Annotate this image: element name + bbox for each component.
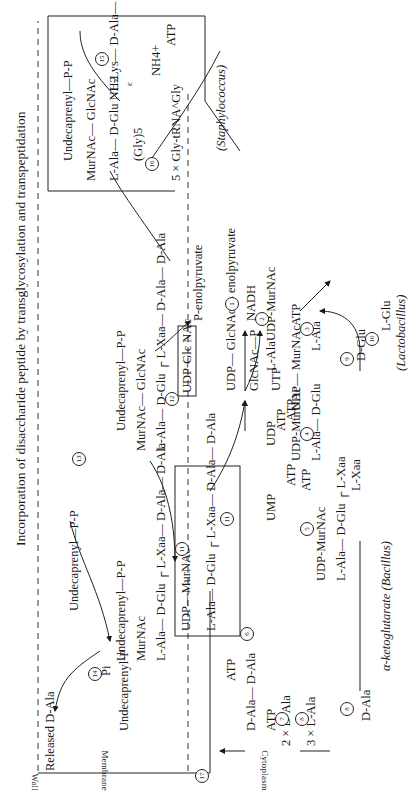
lipid1-peptide: L-Ala— D-Glu ┌ L-Xaa— D-Ala— D-Ala: [155, 443, 168, 661]
bacillus-organism: α-ketoglutarate (Bacillus): [380, 541, 393, 671]
d-ala-bacillus: D-Ala: [360, 690, 373, 721]
released-d-ala: Released D-Ala: [44, 692, 57, 771]
lactobacillus-organism: (Lactobacillus): [395, 295, 408, 371]
staph-sugar: MurNAc— GlcNAc: [85, 79, 98, 181]
pathway-diagram: Incorporation of disaccharide peptide by…: [0, 0, 418, 791]
lipid2-sugar: MurNAc— GlcNAc: [135, 349, 148, 451]
atp-staph: ATP: [165, 24, 178, 46]
atp-udp: ATP: [285, 399, 298, 421]
gly5-label: (Gly)5: [132, 128, 145, 161]
lipid1-sugar: MurNAc: [135, 616, 148, 661]
epsilon-label: ε: [125, 82, 134, 86]
gly-trna: 5 × Gly-tRNA^Gly: [170, 84, 183, 181]
lipid1-lipid: Undecaprenyl—P-P: [115, 560, 128, 661]
nh4-label: NH4+: [150, 45, 163, 76]
step-1: 1: [225, 297, 239, 311]
lipid2-lipid: Undecaprenyl—P-P: [115, 330, 128, 431]
step-6: 6: [240, 627, 254, 641]
lipid2-peptide: L-Ala— D-Glu ┌ L-Xaa— D-Ala— D-Ala: [155, 233, 168, 451]
utp-label: UTP: [270, 367, 283, 391]
step-8a: 8: [295, 712, 309, 726]
udp-glcnac: UDP-Glc NAc: [181, 319, 194, 393]
label-wall: Wall: [30, 773, 39, 791]
staph-peptide-a: L-Ala— D-Glu NH2: [108, 76, 121, 181]
d-ala-d-ala: D-Ala— D-Ala: [245, 653, 258, 731]
label-cytoplasm: Cytoplasm: [260, 750, 269, 791]
l-glu: L-Glu: [380, 300, 393, 331]
step-10: 10: [365, 332, 379, 346]
atp-ump: ATP: [285, 464, 298, 486]
diagram-title: Incorporation of disaccharide peptide by…: [14, 112, 28, 547]
udp-murnac-glu-tail: L-Ala— D-Glu: [310, 384, 323, 461]
glcnac-p: GlcNAc—P: [248, 330, 261, 391]
step-16: 16: [145, 157, 159, 171]
step-14: 14: [88, 667, 102, 681]
udp-label: UDP: [265, 421, 278, 446]
l-xaa: L-Xaa: [350, 459, 363, 491]
label-membrane: Membrane: [100, 750, 109, 791]
step-9: 9: [340, 352, 354, 366]
step-13: 13: [72, 452, 86, 466]
staph-peptide-b: L-Lys— D-Ala— D-Ala: [108, 0, 121, 91]
step-11a: 11: [220, 512, 234, 526]
ump-label: UMP: [265, 494, 278, 521]
step-17: 17: [195, 769, 209, 783]
udp-murnac-xaa-tail: L-Ala— D-Glu ┌ L-Xaa: [335, 457, 348, 581]
undecaprenyl-p: Undecaprenyl-P: [118, 650, 131, 731]
udp-box-peptide: L-Ala— D-Glu ┌ L-Xaa— D-Ala— D-Ala: [205, 413, 218, 631]
step-2: 2: [255, 312, 269, 326]
step-12: 12: [165, 392, 179, 406]
staph-organism: (Staphylococcus): [215, 65, 228, 151]
step-11b: 11: [175, 542, 189, 556]
undecaprenyl-pp: Undecaprenyl—P-P: [68, 510, 81, 611]
step-15: 15: [95, 52, 109, 66]
atp-step6: ATP: [225, 659, 238, 681]
p-enolpyruvate: P-enolpyruvate: [192, 245, 205, 321]
step-7: 7: [275, 712, 289, 726]
udp-murnac-xaa: UDP-MurNAc: [315, 507, 328, 581]
udp-murnac: UDP-MurNAc: [265, 267, 278, 341]
udp-box-head: UDP—MurNAc: [180, 548, 193, 631]
step-3: 3: [300, 322, 314, 336]
atp-step3: ATP: [290, 304, 303, 326]
step-5: 5: [300, 522, 314, 536]
step-8b: 8: [340, 702, 354, 716]
atp-step5: ATP: [300, 469, 313, 491]
staph-lipid: Undecaprenyl—P-P: [62, 60, 75, 161]
step-4: 4: [300, 427, 314, 441]
